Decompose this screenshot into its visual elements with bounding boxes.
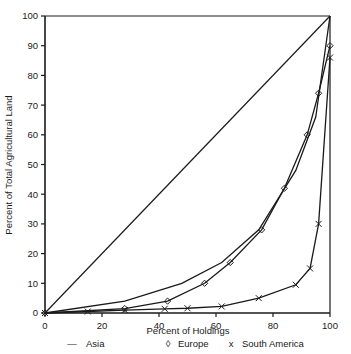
y-tick-label: 30	[27, 218, 38, 229]
y-tick-label: 20	[27, 248, 38, 259]
x-tick-label: 80	[268, 320, 279, 331]
y-tick-label: 10	[27, 278, 38, 289]
lorenz-curve-chart: 0102030405060708090100 020406080100 Perc…	[0, 0, 351, 354]
x-tick-label: 100	[322, 320, 338, 331]
legend-symbol-south-america: x	[229, 338, 234, 349]
y-tick-label: 0	[33, 307, 38, 318]
y-tick-label: 80	[27, 70, 38, 81]
y-tick-label: 70	[27, 100, 38, 111]
legend-symbol-europe: ◊	[166, 338, 171, 349]
legend-symbol-asia: —	[67, 338, 77, 349]
chart-legend: —Asia◊EuropexSouth America	[67, 338, 304, 349]
y-tick-label: 60	[27, 129, 38, 140]
x-axis-title: Percent of Holdings	[147, 325, 230, 336]
y-tick-label: 100	[22, 10, 38, 21]
y-tick-label: 50	[27, 159, 38, 170]
x-tick-label: 20	[97, 320, 108, 331]
legend-label-south-america: South America	[242, 338, 304, 349]
y-axis-title: Percent of Total Agricultural Land	[3, 95, 14, 234]
y-tick-label: 40	[27, 189, 38, 200]
legend-label-europe: Europe	[178, 338, 209, 349]
legend-label-asia: Asia	[86, 338, 105, 349]
chart-figure: 0102030405060708090100 020406080100 Perc…	[0, 0, 351, 354]
y-tick-label: 90	[27, 40, 38, 51]
x-tick-label: 0	[42, 320, 47, 331]
